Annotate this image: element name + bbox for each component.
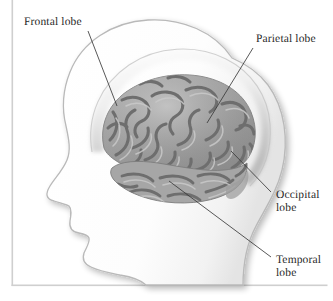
label-temporal-lobe: Temporal lobe <box>276 254 321 279</box>
label-frontal-lobe: Frontal lobe <box>24 16 82 29</box>
label-occipital-lobe: Occipital lobe <box>276 189 320 214</box>
label-parietal-lobe: Parietal lobe <box>256 33 316 46</box>
brain-lobes-diagram: Frontal lobe Parietal lobe Occipital lob… <box>0 0 333 301</box>
